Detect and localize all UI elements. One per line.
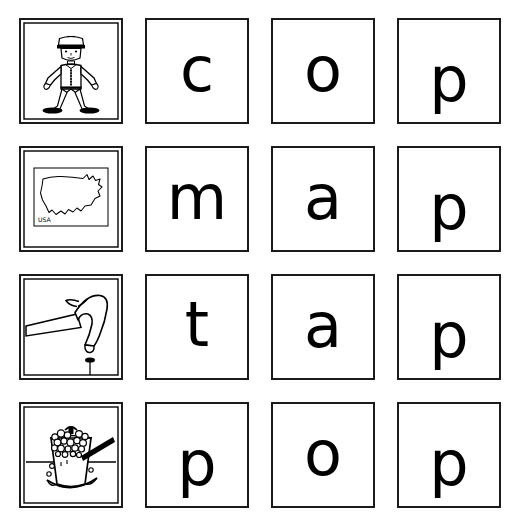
picture-card-hammer[interactable]: [19, 274, 123, 380]
letter-glyph: t: [185, 294, 209, 356]
worksheet-page: c o p USA m a p: [0, 0, 520, 527]
picture-card-usa-map[interactable]: USA: [19, 146, 123, 252]
popcorn-pot-icon: [21, 404, 121, 506]
letter-glyph: p: [429, 177, 468, 239]
letter-glyph: a: [304, 167, 342, 229]
letter-card-r2c3[interactable]: p: [397, 146, 501, 252]
letter-glyph: p: [177, 433, 216, 495]
letter-glyph: p: [429, 305, 468, 367]
letter-card-r1c3[interactable]: p: [397, 18, 501, 124]
letter-card-r2c2[interactable]: a: [271, 146, 375, 252]
letter-card-r4c1[interactable]: p: [145, 402, 249, 508]
picture-card-popcorn-pot[interactable]: [19, 402, 123, 508]
letter-glyph: c: [180, 39, 214, 101]
letter-glyph: a: [304, 295, 342, 357]
letter-card-r3c3[interactable]: p: [397, 274, 501, 380]
letter-glyph: m: [167, 167, 227, 229]
letter-glyph: o: [304, 39, 342, 101]
usa-map-icon: USA: [21, 148, 121, 250]
letter-card-r3c2[interactable]: a: [271, 274, 375, 380]
letter-card-r3c1[interactable]: t: [145, 274, 249, 380]
letter-card-r1c1[interactable]: c: [145, 18, 249, 124]
worksheet-grid: c o p USA m a p: [19, 18, 501, 509]
picture-card-policeman[interactable]: [19, 18, 123, 124]
letter-card-r2c1[interactable]: m: [145, 146, 249, 252]
letter-glyph: p: [429, 433, 468, 495]
letter-card-r4c2[interactable]: o: [271, 402, 375, 508]
letter-card-r4c3[interactable]: p: [397, 402, 501, 508]
letter-glyph: p: [429, 49, 468, 111]
letter-card-r1c2[interactable]: o: [271, 18, 375, 124]
hammer-nail-icon: [21, 276, 121, 378]
letter-glyph: o: [304, 423, 342, 485]
map-inner-label: USA: [38, 216, 52, 223]
policeman-icon: [21, 20, 121, 122]
